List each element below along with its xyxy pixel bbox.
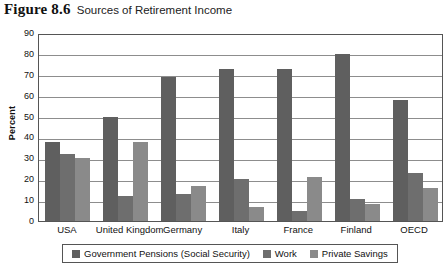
legend-entry: Government Pensions (Social Security)	[72, 248, 250, 259]
x-axis-tick-labels: USAUnited KingdomGermanyItalyFranceFinla…	[38, 224, 443, 240]
bar	[60, 154, 75, 221]
bar	[335, 54, 350, 221]
legend-entry: Private Savings	[310, 248, 388, 259]
x-axis-tick-label: OECD	[385, 224, 443, 235]
y-axis-tick-label: 60	[4, 92, 34, 101]
legend-entry: Work	[263, 248, 297, 259]
legend-label: Government Pensions (Social Security)	[84, 248, 250, 259]
x-axis-tick-label: United Kingdom	[96, 224, 154, 235]
bar-group	[155, 35, 213, 221]
bar	[350, 199, 365, 221]
bar	[176, 194, 191, 221]
bar	[161, 77, 176, 221]
figure-title: Sources of Retirement Income	[77, 4, 232, 16]
bar	[277, 69, 292, 221]
bar-group	[328, 35, 386, 221]
x-axis-tick-label: Germany	[154, 224, 212, 235]
bar	[249, 207, 264, 221]
bar	[75, 158, 90, 221]
figure-caption: Figure 8.6 Sources of Retirement Income	[4, 1, 232, 19]
bar	[234, 179, 249, 221]
y-axis-tick-label: 50	[4, 113, 34, 122]
bar-group	[39, 35, 97, 221]
bar-group	[97, 35, 155, 221]
bar	[45, 142, 60, 221]
bar	[118, 196, 133, 221]
legend-label: Work	[275, 248, 297, 259]
bar	[219, 69, 234, 221]
x-axis-tick-label: Italy	[212, 224, 270, 235]
x-axis-tick-label: France	[269, 224, 327, 235]
y-axis-tick-label: 80	[4, 50, 34, 59]
bar	[393, 100, 408, 221]
bar	[292, 211, 307, 221]
bar-group	[386, 35, 443, 221]
legend-swatch-icon	[263, 250, 271, 258]
bar	[133, 142, 148, 221]
y-axis-tick-label: 0	[4, 217, 34, 226]
bar-chart: Percent 0102030405060708090 USAUnited Ki…	[0, 22, 446, 275]
bar-group	[213, 35, 271, 221]
y-axis-tick-label: 40	[4, 133, 34, 142]
y-axis-tick-label: 30	[4, 154, 34, 163]
bar	[103, 117, 118, 221]
legend-label: Private Savings	[322, 248, 388, 259]
y-axis-tick-label: 20	[4, 175, 34, 184]
chart-legend: Government Pensions (Social Security)Wor…	[62, 244, 398, 263]
bar	[307, 177, 322, 221]
y-axis-tick-label: 90	[4, 29, 34, 38]
y-axis-tick-label: 10	[4, 196, 34, 205]
legend-swatch-icon	[72, 250, 80, 258]
y-axis-tick-label: 70	[4, 71, 34, 80]
figure-number: Figure 8.6	[4, 1, 71, 18]
x-axis-tick-label: USA	[38, 224, 96, 235]
y-axis-tick-labels: 0102030405060708090	[0, 34, 34, 222]
bar	[365, 204, 380, 221]
plot-area	[38, 34, 443, 222]
bar	[408, 173, 423, 221]
bar	[423, 188, 438, 221]
bar-group	[270, 35, 328, 221]
bar	[191, 186, 206, 222]
x-axis-tick-label: Finland	[327, 224, 385, 235]
legend-swatch-icon	[310, 250, 318, 258]
